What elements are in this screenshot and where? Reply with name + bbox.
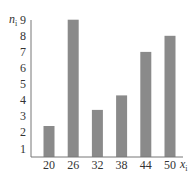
y-tick-label: 1 [20,142,26,156]
bar-20 [44,126,55,157]
bars-group [44,20,176,157]
x-tick-label: 44 [140,158,152,172]
y-tick-labels: 123456789 [20,13,26,156]
x-tick-label: 38 [116,158,128,172]
y-tick-label: 4 [20,93,26,107]
bar-38 [116,95,127,157]
y-tick-label: 8 [20,29,26,43]
y-tick-label: 6 [20,61,26,75]
bar-32 [92,110,103,157]
x-tick-label: 32 [91,158,103,172]
x-tick-labels: 202632384450 [43,158,176,172]
bar-26 [68,20,79,157]
y-tick-label: 9 [20,13,26,27]
y-tick-label: 3 [20,109,26,123]
bar-chart: 123456789 202632384450 ni xi [0,0,196,178]
x-tick-label: 26 [67,158,79,172]
bar-44 [140,52,151,157]
x-tick-label: 20 [43,158,55,172]
y-tick-label: 2 [20,125,26,139]
bar-50 [165,36,176,157]
y-axis-label: ni [9,12,18,28]
y-tick-label: 7 [20,45,26,59]
y-tick-label: 5 [20,77,26,91]
x-axis-label: xi [179,157,188,173]
x-tick-label: 50 [164,158,176,172]
